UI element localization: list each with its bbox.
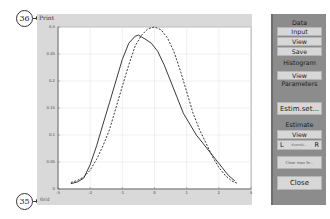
- x-tick-label: 0: [153, 190, 156, 195]
- histogram-heading: Histogram: [273, 59, 326, 66]
- left-button[interactable]: L: [280, 141, 284, 149]
- x-tick-label: -1: [120, 190, 124, 195]
- view-histogram-button[interactable]: View: [277, 71, 322, 80]
- input-button[interactable]: Input: [277, 27, 322, 36]
- save-button[interactable]: Save: [277, 47, 322, 56]
- x-tick-label: 2: [218, 190, 221, 195]
- y-tick-label: 0.05: [47, 159, 56, 164]
- estim-set-button[interactable]: Estim.set...: [277, 102, 322, 115]
- x-tick-label: -3: [56, 190, 60, 195]
- data-heading: Data: [273, 19, 326, 26]
- y-tick-label: 0.3: [49, 24, 56, 29]
- clear-button[interactable]: Clear max fe...: [277, 156, 322, 169]
- kernel-label: Kcomb...: [291, 143, 306, 147]
- control-panel: Data Input View Save Histogram View Para…: [271, 14, 326, 205]
- parameters-label[interactable]: Parameters: [273, 80, 326, 87]
- estimate-heading: Estimate: [273, 121, 326, 128]
- x-tick-label: 1: [185, 190, 188, 195]
- kernel-selector[interactable]: L Kcomb... R: [277, 140, 322, 150]
- y-tick-label: 0.2: [49, 78, 56, 83]
- y-tick-label: 0.1: [49, 132, 56, 137]
- close-button[interactable]: Close: [277, 176, 322, 190]
- view-data-button[interactable]: View: [277, 37, 322, 46]
- y-tick-label: 0.15: [47, 105, 56, 110]
- x-tick-label: -2: [88, 190, 92, 195]
- view-estimate-button[interactable]: View: [277, 130, 322, 139]
- y-tick-label: 0.25: [47, 51, 56, 56]
- right-button[interactable]: R: [314, 141, 319, 149]
- x-tick-label: 3: [250, 190, 253, 195]
